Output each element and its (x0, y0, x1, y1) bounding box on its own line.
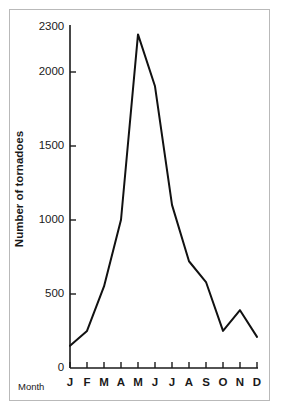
chart-canvas (0, 0, 287, 412)
y-tick-label-2000: 2000 (18, 66, 64, 77)
x-axis-title: Month (18, 381, 44, 392)
y-tick-label-500: 500 (18, 288, 64, 299)
tornado-line-chart-figure: 2300 2000 1500 1000 500 0 J F M A M J J … (0, 0, 287, 412)
x-tick-label-dec: D (247, 377, 267, 388)
y-axis-title: Number of tornadoes (13, 114, 25, 264)
y-tick-label-2300: 2300 (18, 21, 64, 32)
y-tick-label-0: 0 (18, 362, 64, 373)
tornado-data-line (70, 34, 257, 345)
y-tick-marks (70, 72, 76, 294)
x-tick-marks (70, 362, 257, 368)
